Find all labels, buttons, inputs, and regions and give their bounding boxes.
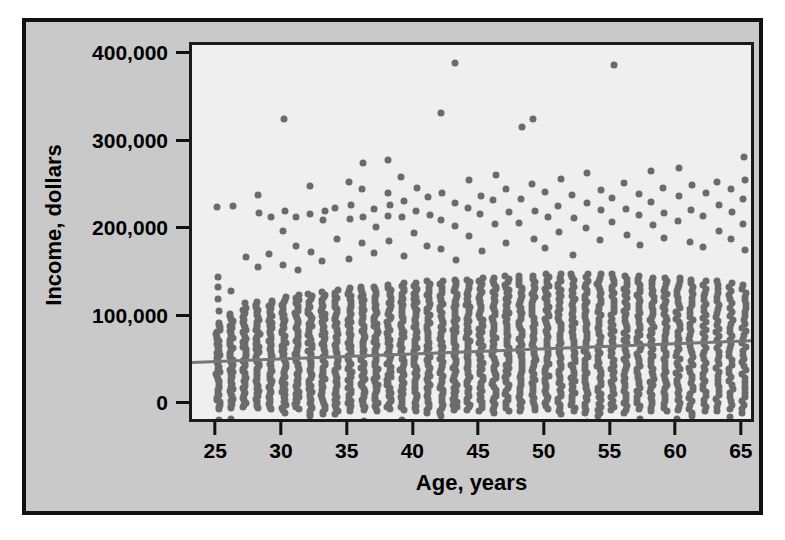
x-axis-tick-mark <box>477 422 480 435</box>
x-axis-tick: 55 <box>598 422 621 461</box>
x-axis-tick-label: 25 <box>204 440 227 461</box>
x-axis-tick-label: 60 <box>663 440 686 461</box>
figure-panel: Income, dollars 0100,000200,000300,00040… <box>22 18 763 515</box>
y-axis-tick-label: 300,000 <box>92 130 168 151</box>
x-axis-tick-mark <box>608 422 611 435</box>
x-axis-tick-mark <box>542 422 545 435</box>
x-axis-tick: 25 <box>204 422 227 461</box>
y-axis-tick-label: 0 <box>156 392 168 413</box>
x-axis-tick-label: 40 <box>401 440 424 461</box>
y-axis-tick-mark <box>176 226 189 229</box>
y-axis-tick-label: 100,000 <box>92 305 168 326</box>
x-axis-title: Age, years <box>189 470 754 496</box>
scatter-point <box>715 421 722 422</box>
y-axis-tick-mark <box>176 139 189 142</box>
x-axis-tick: 60 <box>663 422 686 461</box>
x-axis-tick-label: 55 <box>598 440 621 461</box>
scatter-point <box>647 421 654 422</box>
x-axis-tick-label: 50 <box>532 440 555 461</box>
y-axis-tick-mark <box>176 314 189 317</box>
x-axis-tick-label: 30 <box>269 440 292 461</box>
x-axis-tick: 50 <box>532 422 555 461</box>
regression-line <box>192 339 754 364</box>
x-axis-tick-label: 35 <box>335 440 358 461</box>
x-axis-tick-mark <box>345 422 348 435</box>
figure-root: Income, dollars 0100,000200,000300,00040… <box>0 0 785 540</box>
x-axis-tick-mark <box>279 422 282 435</box>
plot-area <box>189 42 754 422</box>
x-axis-tick-mark <box>411 422 414 435</box>
y-axis-tick-label: 400,000 <box>92 42 168 63</box>
y-axis-tick-mark <box>176 51 189 54</box>
x-axis-tick-label: 65 <box>729 440 752 461</box>
x-axis-tick-mark <box>739 422 742 435</box>
y-axis-title: Income, dollars <box>41 105 67 345</box>
scatter-point <box>584 419 591 422</box>
y-axis-tick-mark <box>176 401 189 404</box>
x-axis-tick: 45 <box>466 422 489 461</box>
x-axis-tick: 65 <box>729 422 752 461</box>
x-axis-tick-mark <box>214 422 217 435</box>
y-axis-tick-label: 200,000 <box>92 217 168 238</box>
x-axis-tick-mark <box>674 422 677 435</box>
x-axis-tick: 35 <box>335 422 358 461</box>
regression-line-layer <box>192 45 751 419</box>
x-axis-tick: 40 <box>401 422 424 461</box>
x-axis-tick-label: 45 <box>466 440 489 461</box>
x-axis-tick: 30 <box>269 422 292 461</box>
